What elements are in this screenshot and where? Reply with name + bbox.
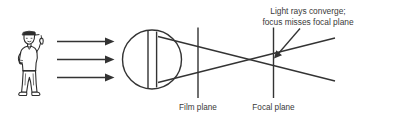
film-plane-label: Film plane: [179, 103, 217, 112]
incoming-ray-arrow-2: [57, 56, 115, 64]
incoming-rays-group: [57, 38, 115, 82]
incoming-ray-arrow-3: [57, 74, 115, 82]
converging-rays-group: [158, 37, 335, 83]
focal-plane-label: Focal plane: [252, 103, 295, 112]
annotation-line-1: Light rays converge;: [270, 6, 345, 16]
annotation-arrow: [274, 29, 300, 59]
annotation-line-2: focus misses focal plane: [262, 17, 354, 27]
person-figure: [18, 31, 43, 95]
lens-group: [123, 30, 182, 89]
lens-circle: [123, 30, 182, 89]
ray-bottom-to-top: [158, 38, 335, 83]
ray-top-to-bottom: [158, 37, 335, 82]
incoming-ray-arrow-1: [57, 38, 115, 46]
diagram-canvas: Light rays converge; focus misses focal …: [0, 0, 400, 116]
focus-diagram-figure: Light rays converge; focus misses focal …: [0, 0, 400, 116]
